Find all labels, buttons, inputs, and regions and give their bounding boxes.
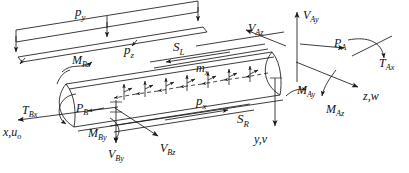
- label-pa: PA: [334, 37, 346, 53]
- diagram-vector-canvas: [0, 0, 409, 173]
- label-tax: TAx: [379, 57, 394, 73]
- px-distributed-arrows: [114, 73, 268, 98]
- label-may: MAy: [297, 84, 315, 100]
- mbz-tail: [57, 70, 70, 84]
- label-vby: VBy: [108, 148, 124, 164]
- label-vay: VAy: [303, 9, 319, 25]
- label-sr: SR: [237, 112, 249, 128]
- label-sl: SL: [173, 40, 184, 56]
- label-py: py: [75, 5, 85, 21]
- upper-guide-line: [196, 32, 284, 46]
- label-z-axis: z,w: [363, 90, 379, 106]
- label-vaz: VAz: [248, 22, 264, 38]
- sr-guide-upper: [110, 104, 250, 126]
- label-tbx: TBx: [22, 104, 37, 120]
- node-a-forces: [246, 12, 392, 126]
- label-pz: pz: [124, 43, 134, 59]
- label-maz: MAz: [326, 103, 344, 119]
- label-mby: MBy: [88, 127, 107, 143]
- label-x-axis: x,uo: [3, 126, 21, 142]
- beam-free-body-diagram: py pz SL mx px SR MBz TBx PB MBy x,uo VB…: [0, 0, 409, 173]
- label-pb: PB: [76, 102, 88, 118]
- label-y-axis: y,v: [254, 133, 267, 149]
- label-px: px: [196, 94, 206, 110]
- label-mx: mx: [196, 62, 208, 78]
- mx-distributed-arrows: [124, 66, 258, 100]
- label-mbz: MBz: [72, 54, 90, 70]
- label-vbz: VBz: [160, 142, 176, 158]
- maz-moment-arc: [322, 70, 336, 96]
